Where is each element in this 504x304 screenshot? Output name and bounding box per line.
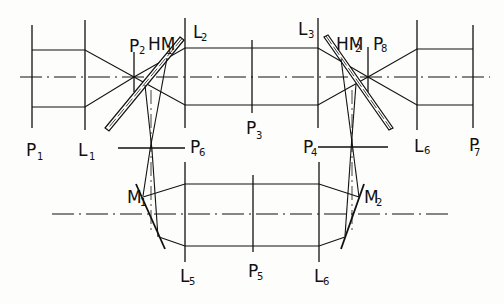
svg-text:2: 2 [355,43,361,54]
svg-text:6: 6 [199,147,205,158]
label-p2: P 2 [129,36,145,56]
svg-text:7: 7 [474,147,480,158]
svg-text:3: 3 [308,29,314,40]
svg-text:3: 3 [256,130,262,141]
svg-text:1: 1 [37,151,43,162]
label-l6-bottom: L 6 [314,266,329,287]
mirror-m2 [341,184,364,249]
svg-text:8: 8 [381,43,387,54]
svg-text:L: L [78,140,88,160]
label-p3: P 3 [246,118,262,141]
label-l2: L 2 [193,22,207,43]
svg-text:2: 2 [376,197,382,208]
bottom-beam [143,184,359,246]
label-hm2: HM 2 [336,34,363,54]
svg-text:P: P [129,36,139,56]
label-m2: M 2 [364,187,382,208]
svg-text:L: L [414,136,424,156]
svg-text:4: 4 [311,147,317,158]
label-p5: P 5 [248,261,263,282]
label-l5: L 5 [180,266,195,287]
svg-text:P: P [246,118,256,138]
svg-text:2: 2 [201,32,207,43]
svg-text:6: 6 [424,145,430,156]
label-p4: P 4 [303,137,317,158]
label-l3: L 3 [298,19,314,40]
label-hm1: HM 1 [148,34,175,56]
svg-text:1: 1 [89,151,95,162]
label-l1: L 1 [78,140,95,162]
label-p1: P 1 [26,140,43,162]
label-l6-top: L 6 [414,136,430,156]
svg-text:L: L [298,19,308,39]
svg-text:P: P [26,140,36,160]
svg-text:6: 6 [323,276,329,287]
label-p8: P 8 [373,34,387,54]
optical-diagram: P 1 L 1 P 2 HM 1 L 2 P 3 L 3 HM 2 P 8 L … [0,0,504,304]
label-p6: P 6 [190,137,205,158]
label-p7: P 7 [469,135,480,158]
svg-text:2: 2 [139,45,145,56]
svg-text:1: 1 [140,197,146,208]
svg-text:5: 5 [257,271,263,282]
svg-text:5: 5 [189,276,195,287]
svg-text:1: 1 [166,45,172,56]
